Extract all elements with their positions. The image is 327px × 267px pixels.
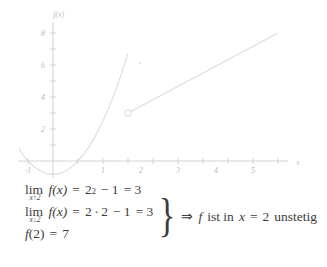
implies-symbol: ⇒ — [181, 208, 193, 225]
limit-left-function: f(x) — [49, 183, 68, 197]
y-tick-label-4: 4 — [41, 93, 45, 102]
lim-operator-left: limx↑2 — [25, 183, 45, 197]
y-tick-label-6: 6 — [41, 61, 45, 70]
x-tick-label-5: 5 — [251, 166, 255, 175]
lim-subscript-left: x↑2 — [30, 194, 41, 202]
page-root: -1 1 2 3 4 5 2 4 6 8 f(x) x limx↑2 f(x) — [0, 0, 327, 267]
limit-left-exponent: 2 — [92, 187, 96, 196]
open-circle-marker — [125, 110, 131, 116]
curve-parabola-branch — [19, 53, 128, 174]
y-tick-label-2: 2 — [41, 125, 45, 134]
conclusion-function: f — [198, 209, 202, 225]
filled-point-marker — [139, 62, 141, 64]
conclusion-equals: = — [250, 209, 258, 225]
lim-operator-right: limx↓2 — [25, 205, 45, 219]
function-value-equation: f(2) = 7 — [25, 227, 153, 249]
conclusion-point: 2 — [263, 209, 270, 225]
limit-right-equation: limx↓2 f(x) = 2·2 − 1 = 3 — [25, 205, 153, 227]
lim-subscript-right: x↓2 — [30, 216, 41, 224]
function-value-result: 7 — [62, 227, 69, 241]
y-axis-label: f(x) — [53, 10, 64, 19]
conclusion-statement: ⇒ f ist in x = 2 unstetig — [181, 208, 317, 225]
x-tick-label-4: 4 — [214, 166, 218, 175]
curve-linear-branch — [128, 33, 278, 113]
conclusion-text-1: ist in — [207, 209, 234, 225]
x-tick-label-neg1: -1 — [25, 166, 32, 175]
x-tick-label-2: 2 — [139, 166, 143, 175]
limit-right-factor-b: 2 — [101, 205, 108, 219]
multiplication-dot: · — [92, 205, 102, 219]
x-tick-label-3: 3 — [175, 166, 180, 175]
x-tick-label-1: 1 — [101, 166, 105, 175]
function-plot: -1 1 2 3 4 5 2 4 6 8 f(x) x — [0, 0, 327, 182]
conclusion-variable: x — [239, 209, 245, 225]
plot-svg: -1 1 2 3 4 5 2 4 6 8 f(x) x — [0, 0, 327, 182]
function-value-argument: (2) — [29, 227, 45, 241]
limit-left-equation: limx↑2 f(x) = 22 − 1 = 3 — [25, 183, 153, 205]
limit-right-minus-term: − 1 — [113, 205, 131, 219]
limit-left-result: = 3 — [124, 183, 142, 197]
limit-right-equals: = — [72, 205, 80, 219]
limit-left-equals: = — [72, 183, 80, 197]
limit-equations-stack: limx↑2 f(x) = 22 − 1 = 3 limx↓2 f(x) — [25, 183, 153, 249]
y-tick-label-8: 8 — [41, 29, 45, 38]
limit-right-factor-a: 2 — [85, 205, 92, 219]
x-axis-label: x — [295, 158, 300, 167]
limit-right-function: f(x) — [49, 205, 68, 219]
math-derivation-block: limx↑2 f(x) = 22 − 1 = 3 limx↓2 f(x) — [0, 181, 327, 267]
function-value-equals: = — [50, 227, 58, 241]
conclusion-text-2: unstetig — [274, 209, 317, 225]
limit-right-result: = 3 — [136, 205, 154, 219]
limit-left-minus-term: − 1 — [101, 183, 119, 197]
limit-left-base: 2 — [85, 183, 92, 197]
right-curly-brace: } — [159, 193, 176, 239]
